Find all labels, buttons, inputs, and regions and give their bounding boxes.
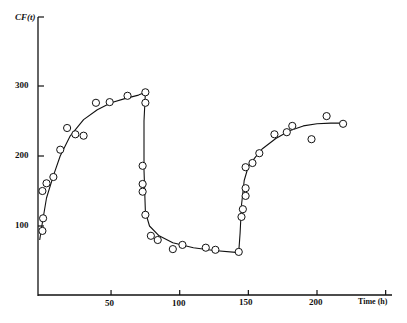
data-point-open-circle	[202, 244, 209, 251]
fitted-curve-line	[40, 92, 343, 252]
data-point-open-circle	[80, 132, 87, 139]
x-axis-label: Time (h)	[358, 297, 387, 306]
data-point-open-circle	[142, 89, 149, 96]
data-point-open-circle	[271, 131, 278, 138]
data-point-open-circle	[57, 146, 64, 153]
x-tick-label-200: 200	[309, 297, 323, 307]
data-point-open-circle	[39, 187, 46, 194]
data-point-open-circle	[323, 113, 330, 120]
data-point-open-circle	[235, 248, 242, 255]
data-point-open-circle	[142, 99, 149, 106]
data-point-open-circle	[256, 150, 263, 157]
data-points	[39, 89, 347, 256]
x-tick-label-150: 150	[239, 297, 253, 307]
data-point-open-circle	[139, 188, 146, 195]
axes	[38, 17, 392, 296]
data-point-open-circle	[242, 164, 249, 171]
data-point-open-circle	[43, 180, 50, 187]
data-point-open-circle	[64, 124, 71, 131]
data-point-open-circle	[92, 99, 99, 106]
data-point-open-circle	[39, 215, 46, 222]
data-point-open-circle	[124, 92, 131, 99]
y-tick-label-200: 200	[15, 150, 29, 160]
data-point-open-circle	[289, 122, 296, 129]
data-point-open-circle	[212, 246, 219, 253]
data-point-open-circle	[147, 232, 154, 239]
x-tick-label-100: 100	[172, 298, 186, 308]
data-point-open-circle	[339, 120, 346, 127]
data-point-open-circle	[139, 162, 146, 169]
data-point-open-circle	[50, 173, 57, 180]
data-point-open-circle	[139, 180, 146, 187]
data-point-open-circle	[169, 246, 176, 253]
data-point-open-circle	[308, 136, 315, 143]
data-point-open-circle	[106, 99, 113, 106]
data-point-open-circle	[154, 236, 161, 243]
data-point-open-circle	[283, 129, 290, 136]
y-tick-label-100: 100	[15, 220, 29, 230]
y-axis-label: CF(t)	[15, 12, 36, 22]
data-point-open-circle	[179, 241, 186, 248]
data-point-open-circle	[72, 131, 79, 138]
data-point-open-circle	[39, 227, 46, 234]
y-tick-label-300: 300	[15, 80, 29, 90]
data-point-open-circle	[249, 159, 256, 166]
data-point-open-circle	[238, 213, 245, 220]
data-point-open-circle	[242, 185, 249, 192]
data-point-open-circle	[242, 192, 249, 199]
x-tick-label-50: 50	[105, 298, 114, 308]
chart-plot-area	[0, 0, 407, 323]
data-point-open-circle	[142, 211, 149, 218]
fitted-curve	[40, 92, 343, 252]
data-point-open-circle	[239, 206, 246, 213]
